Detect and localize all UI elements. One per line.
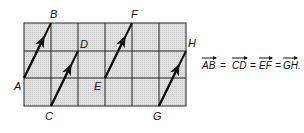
label-g: G bbox=[153, 110, 162, 122]
eq-term-gh: GH bbox=[283, 60, 299, 71]
eq-term-ab: AB bbox=[201, 60, 216, 71]
label-a: A bbox=[13, 80, 21, 92]
label-d: D bbox=[80, 38, 88, 50]
vector-equation: AB = CD = EF = GH . bbox=[201, 56, 301, 71]
eq-sep-1: = bbox=[220, 60, 226, 71]
eq-sep-3: = bbox=[275, 60, 281, 71]
label-c: C bbox=[45, 110, 53, 122]
label-f: F bbox=[131, 8, 139, 20]
label-e: E bbox=[94, 80, 102, 92]
eq-sep-2: = bbox=[250, 60, 256, 71]
label-b: B bbox=[50, 8, 57, 20]
vector-equality-diagram: A B C D E F G H AB = CD = EF = GH . bbox=[0, 0, 304, 133]
eq-end: . bbox=[298, 60, 301, 71]
eq-term-ef: EF bbox=[259, 60, 273, 71]
grid bbox=[24, 23, 186, 106]
label-h: H bbox=[188, 37, 196, 49]
eq-term-cd: CD bbox=[232, 60, 246, 71]
